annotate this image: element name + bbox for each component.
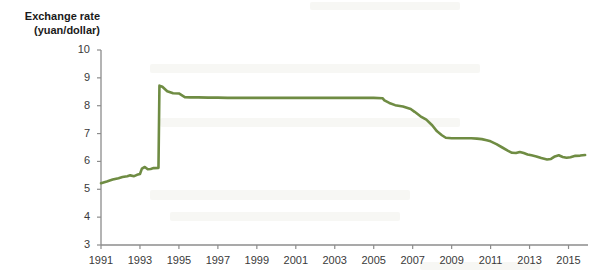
x-tick-label: 2001 <box>276 255 316 266</box>
y-tick-label: 10 <box>68 44 90 55</box>
x-tick-label: 2005 <box>354 255 394 266</box>
x-tick-label: 2003 <box>315 255 355 266</box>
y-tick-label: 3 <box>68 239 90 250</box>
y-tick-label: 9 <box>68 72 90 83</box>
x-tick-label: 2007 <box>393 255 433 266</box>
y-tick-label: 6 <box>68 155 90 166</box>
axes <box>97 50 588 249</box>
x-tick-label: 1993 <box>120 255 160 266</box>
x-tick-label: 1997 <box>198 255 238 266</box>
x-tick-label: 1995 <box>159 255 199 266</box>
chart-canvas <box>0 0 600 279</box>
x-tick-label: 1999 <box>237 255 277 266</box>
x-tick-label: 1991 <box>81 255 121 266</box>
exchange-rate-chart: Exchange rate (yuan/dollar) 109876543 19… <box>0 0 600 279</box>
x-tick-label: 2013 <box>510 255 550 266</box>
y-tick-label: 4 <box>68 211 90 222</box>
y-tick-label: 5 <box>68 183 90 194</box>
x-tick-label: 2011 <box>471 255 511 266</box>
exchange-rate-line <box>101 86 585 184</box>
x-tick-label: 2009 <box>432 255 472 266</box>
y-tick-label: 7 <box>68 128 90 139</box>
data-series-group <box>101 86 585 184</box>
y-tick-label: 8 <box>68 100 90 111</box>
x-tick-label: 2015 <box>549 255 589 266</box>
